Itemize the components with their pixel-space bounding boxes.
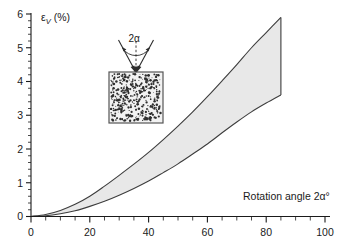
speck [110, 92, 112, 94]
speck [122, 92, 124, 94]
x-tick-label: 20 [84, 226, 96, 238]
speck [144, 96, 146, 98]
speck [120, 87, 122, 89]
x-tick-label: 40 [143, 226, 155, 238]
speck [113, 78, 115, 80]
y-tick-label: 1 [17, 177, 23, 189]
speck [151, 82, 152, 83]
speck [130, 107, 131, 108]
speck [157, 74, 158, 75]
speck [112, 99, 113, 100]
speck [153, 100, 155, 102]
speck [145, 101, 147, 103]
speck [152, 83, 154, 85]
speck [137, 113, 139, 115]
speck [150, 116, 152, 118]
y-tick-group [26, 14, 31, 217]
speck [113, 81, 114, 82]
speck [159, 108, 160, 109]
speck [137, 96, 138, 97]
speck [113, 103, 114, 104]
speck [129, 80, 130, 81]
speck [148, 92, 151, 95]
speck [157, 80, 158, 81]
speck [133, 90, 134, 91]
speck [147, 85, 148, 86]
y-tick-label: 6 [17, 8, 23, 20]
speck [111, 95, 113, 97]
speck [139, 116, 140, 117]
speck [140, 74, 141, 75]
speck [144, 116, 146, 118]
angle-label: 2α [129, 33, 141, 44]
speck [118, 99, 120, 101]
speck [131, 84, 133, 86]
speck [112, 104, 114, 106]
speck [111, 98, 112, 99]
speck [146, 95, 148, 97]
speck [127, 81, 128, 82]
y-tick-label: 0 [17, 210, 23, 222]
speck [134, 73, 137, 76]
speck [125, 104, 126, 105]
speck [121, 83, 123, 85]
speck [135, 83, 137, 85]
speck [128, 93, 130, 95]
speck [139, 85, 141, 87]
speck [143, 88, 144, 89]
speck [148, 78, 149, 79]
speck [149, 79, 152, 82]
speck [122, 81, 123, 82]
speck [145, 114, 146, 115]
speck [133, 88, 134, 89]
speck [126, 88, 128, 90]
speck [142, 79, 143, 80]
speck [145, 74, 147, 76]
speck [146, 78, 148, 80]
x-tick-label: 60 [202, 226, 214, 238]
speck [130, 95, 132, 97]
speck [116, 93, 118, 95]
speck [142, 86, 144, 88]
chart-figure: 0123456 020406080100 εV(%) Rotation angl… [0, 0, 339, 251]
speck [150, 98, 152, 100]
speck [158, 94, 160, 96]
speck [111, 114, 113, 116]
speck [132, 101, 133, 102]
speck [154, 98, 156, 100]
speck [121, 106, 123, 108]
speck [141, 97, 142, 98]
speck [155, 74, 157, 76]
speck [134, 105, 136, 107]
x-tick-label: 100 [316, 226, 334, 238]
speck [123, 76, 125, 78]
y-axis-title: εV(%) [41, 11, 70, 26]
speck [127, 98, 129, 100]
speck [153, 92, 154, 93]
speck [115, 96, 117, 98]
speck [148, 95, 150, 97]
speck [133, 99, 135, 101]
y-tick-label: 4 [17, 75, 23, 87]
speck [156, 110, 158, 112]
speck [140, 114, 141, 115]
speck [147, 105, 148, 106]
speck [121, 111, 123, 113]
speck [119, 82, 121, 84]
speck [112, 103, 113, 104]
speck [116, 98, 117, 99]
angle-arc-head-right [146, 47, 151, 52]
speck [111, 112, 112, 113]
speck [154, 89, 155, 90]
speck [122, 100, 124, 102]
speck [148, 84, 150, 86]
speck [155, 76, 157, 78]
speck [146, 89, 147, 90]
speck [141, 115, 143, 117]
speck [142, 74, 143, 75]
speck [114, 76, 116, 78]
speck [113, 88, 114, 89]
speck [129, 75, 131, 77]
speck [150, 120, 152, 122]
y-tick-label: 3 [17, 109, 23, 121]
